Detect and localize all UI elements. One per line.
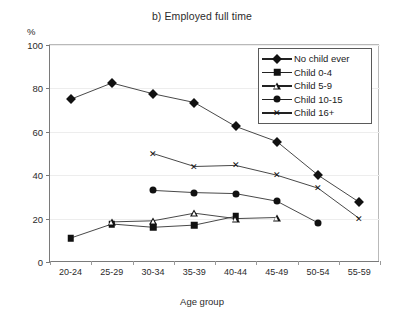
chart-legend: No child everChild 0-4Child 5-9Child 10-… <box>258 48 372 124</box>
x-tick-label: 50-54 <box>307 267 330 277</box>
x-tick-label: 35-39 <box>183 267 206 277</box>
data-point-circle <box>191 189 198 196</box>
legend-label: No child ever <box>292 53 349 64</box>
x-tick-label: 20-24 <box>59 267 82 277</box>
legend-marker-square-icon <box>262 66 292 79</box>
x-tick-label: 40-44 <box>224 267 247 277</box>
data-point-triangle <box>232 215 240 222</box>
data-point-circle <box>273 198 280 205</box>
series-line <box>153 154 359 219</box>
y-tick-label: 40 <box>32 170 43 181</box>
y-tick-label: 80 <box>32 83 43 94</box>
legend-label: Child 16+ <box>292 107 334 118</box>
y-tick-label: 0 <box>38 257 43 268</box>
legend-marker-circle-icon <box>262 93 292 106</box>
data-point-square <box>150 224 157 231</box>
data-point-triangle <box>108 218 116 225</box>
x-tick-label: 25-29 <box>100 267 123 277</box>
x-axis-title: Age group <box>0 296 404 307</box>
data-point-triangle <box>190 210 198 217</box>
data-point-circle <box>150 187 157 194</box>
legend-label: Child 0-4 <box>292 67 332 78</box>
legend-item[interactable]: Child 0-4 <box>262 66 367 80</box>
data-point-x: ✕ <box>355 214 363 223</box>
legend-marker-diamond-icon <box>262 52 292 65</box>
legend-item[interactable]: Child 5-9 <box>262 79 367 93</box>
x-tick-label: 55-59 <box>348 267 371 277</box>
x-tick-label: 30-34 <box>142 267 165 277</box>
legend-marker-x-icon: ✕ <box>262 106 292 119</box>
y-tick-label: 60 <box>32 126 43 137</box>
legend-item[interactable]: No child ever <box>262 52 367 66</box>
x-tick-mark <box>380 261 381 265</box>
data-point-x: ✕ <box>273 171 281 180</box>
legend-item[interactable]: ✕Child 16+ <box>262 106 367 120</box>
data-point-x: ✕ <box>149 149 157 158</box>
data-point-square <box>67 235 74 242</box>
legend-label: Child 5-9 <box>292 80 332 91</box>
data-point-square <box>191 222 198 229</box>
data-point-triangle <box>273 214 281 221</box>
data-point-circle <box>315 219 322 226</box>
data-point-x: ✕ <box>314 184 322 193</box>
chart-title: b) Employed full time <box>0 10 404 22</box>
legend-marker-triangle-icon <box>262 79 292 92</box>
chart-figure: b) Employed full time % 020406080100 20-… <box>0 0 404 319</box>
legend-label: Child 10-15 <box>292 94 343 105</box>
y-tick-label: 100 <box>27 40 43 51</box>
data-point-x: ✕ <box>232 161 240 170</box>
data-point-circle <box>232 190 239 197</box>
y-axis-title: % <box>27 26 35 37</box>
data-point-triangle <box>149 217 157 224</box>
y-tick-label: 20 <box>32 213 43 224</box>
legend-item[interactable]: Child 10-15 <box>262 93 367 107</box>
data-point-x: ✕ <box>190 162 198 171</box>
x-tick-label: 45-49 <box>265 267 288 277</box>
